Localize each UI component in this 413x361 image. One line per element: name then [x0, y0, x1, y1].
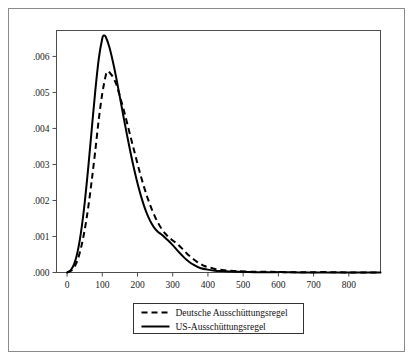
y-axis-ticks: .000.001.002.003.004.005.006 [33, 52, 57, 278]
x-tick-label: 800 [342, 280, 357, 290]
legend-label-1: Deutsche Ausschüttungsregel [176, 308, 288, 318]
chart-legend: Deutsche AusschüttungsregelUS-Ausschüttu… [134, 304, 304, 334]
y-tick-label: .001 [33, 232, 50, 242]
y-tick-label: .006 [33, 52, 50, 62]
x-tick-label: 100 [95, 280, 110, 290]
x-axis-ticks: 0100200300400500600700800 [65, 273, 356, 290]
y-tick-label: .004 [33, 124, 50, 134]
density-chart: 0100200300400500600700800 .000.001.002.0… [0, 0, 413, 361]
y-tick-label: .002 [33, 196, 50, 206]
x-tick-label: 600 [271, 280, 286, 290]
x-tick-label: 700 [306, 280, 321, 290]
x-tick-label: 0 [65, 280, 70, 290]
y-tick-label: .000 [33, 268, 50, 278]
y-tick-label: .005 [33, 88, 50, 98]
y-tick-label: .003 [33, 160, 50, 170]
x-tick-label: 500 [236, 280, 251, 290]
legend-label-2: US-Ausschüttungsregel [176, 322, 267, 332]
plot-frame [57, 31, 381, 273]
x-tick-label: 200 [130, 280, 145, 290]
x-tick-label: 300 [166, 280, 181, 290]
figure-container: 0100200300400500600700800 .000.001.002.0… [0, 0, 413, 361]
x-tick-label: 400 [201, 280, 216, 290]
